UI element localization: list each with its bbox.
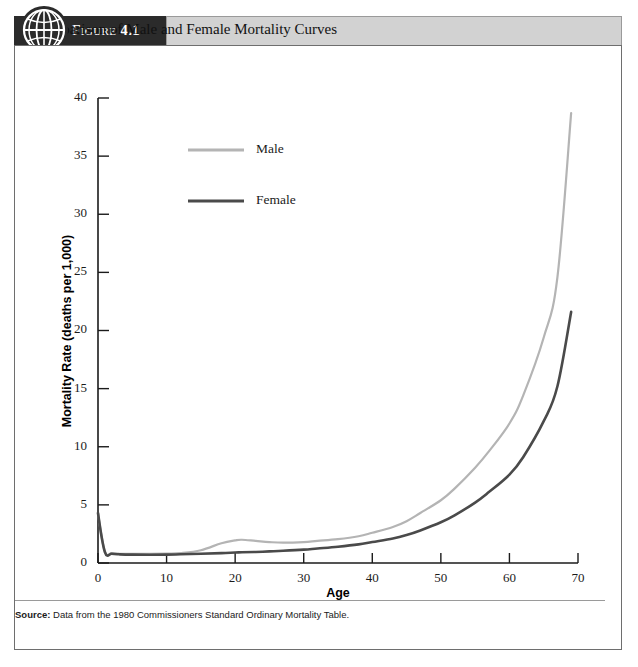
source-note: Source: Data from the 1980 Commissioners… (15, 600, 605, 620)
figure-header: Figure 4.1 Comparison of Male and Female… (14, 16, 622, 46)
figure-frame (14, 45, 622, 650)
source-label: Source: (15, 609, 50, 620)
source-text: Data from the 1980 Commissioners Standar… (50, 609, 349, 620)
page-title: Comparison of Male and Female Mortality … (33, 21, 337, 38)
